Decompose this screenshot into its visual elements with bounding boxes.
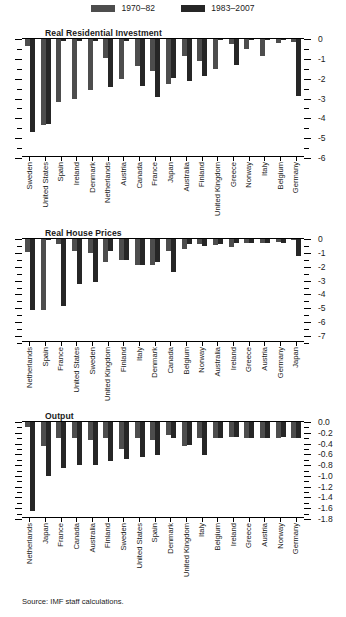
y-tick-major: [15, 422, 22, 423]
y-tick-major: [15, 99, 22, 100]
bar-series2: [202, 239, 207, 246]
x-axis-label: Ireland: [226, 521, 242, 522]
bar-series1: [213, 39, 218, 69]
y-tick-minor: [304, 449, 309, 450]
bar-group: [22, 39, 38, 157]
y-tick-label: -0.6: [318, 450, 333, 459]
x-axis-label: United States: [38, 160, 54, 161]
x-axis-label: Greece: [241, 521, 257, 522]
bar-series1: [72, 39, 77, 99]
x-axis-label-text: Italy: [136, 347, 144, 361]
y-tick-major: [304, 281, 311, 282]
x-axis-label: Belgium: [273, 160, 289, 161]
y-tick-major: [304, 322, 311, 323]
y-tick-major: [304, 158, 311, 159]
x-axis-label-text: United Kingdom: [104, 347, 112, 401]
x-axis-label: Italy: [132, 345, 148, 346]
y-tick-major: [304, 336, 311, 337]
bar-group: [226, 39, 242, 157]
y-tick-label: -0.2: [318, 429, 333, 438]
bar-series2: [93, 239, 98, 282]
x-axis-label-text: United Kingdom: [183, 523, 191, 577]
bar-series2: [171, 39, 176, 78]
bar-group: [273, 422, 289, 518]
bar-series2: [296, 39, 301, 96]
bar-series2: [281, 422, 286, 437]
legend-item-1970-82: 1970–82: [91, 4, 155, 13]
x-axis-label-text: Netherlands: [26, 523, 34, 564]
bar-group: [241, 239, 257, 342]
bar-group: [226, 422, 242, 518]
x-axis-label: Norway: [273, 521, 289, 522]
y-tick-major: [15, 519, 22, 520]
y-tick-minor: [304, 329, 309, 330]
y-tick-major: [15, 308, 22, 309]
y-tick-minor: [304, 49, 309, 50]
bar-group: [179, 422, 195, 518]
y-tick-major: [304, 59, 311, 60]
bar-group: [241, 422, 257, 518]
bar-series-container: [22, 422, 304, 518]
bar-group: [116, 239, 132, 342]
x-axis-label: Netherlands: [22, 521, 38, 522]
y-tick-major: [15, 253, 22, 254]
x-axis-label: Japan: [38, 521, 54, 522]
x-axis-label-text: Italy: [261, 162, 269, 176]
y-tick-minor: [304, 128, 309, 129]
x-axis-label-text: United States: [136, 523, 144, 569]
legend-swatch-1970-82: [91, 5, 115, 12]
bar-series-container: [22, 39, 304, 157]
y-tick-major: [15, 465, 22, 466]
y-tick-label: 0: [318, 235, 323, 244]
bar-group: [210, 39, 226, 157]
y-tick-label: -6: [318, 154, 326, 163]
bar-series2: [171, 239, 176, 272]
bar-series2: [296, 239, 301, 256]
bar-series2: [155, 239, 160, 262]
x-axis-label-text: Sweden: [89, 347, 97, 374]
bar-group: [147, 239, 163, 342]
bar-group: [53, 239, 69, 342]
y-tick-label: -7: [318, 332, 326, 341]
bar-group: [194, 39, 210, 157]
legend-label-1970-82: 1970–82: [121, 4, 155, 13]
x-axis-label: Ireland: [69, 160, 85, 161]
bar-series1: [244, 39, 249, 49]
x-axis-label-text: Austria: [261, 347, 269, 371]
bar-series2: [124, 239, 129, 260]
x-axis-label-text: Canada: [136, 162, 144, 189]
panel-0-x-labels: SwedenUnited StatesSpainIrelandDenmarkNe…: [22, 160, 304, 161]
y-tick-label: -4: [318, 114, 326, 123]
bar-series2: [202, 39, 207, 76]
bar-group: [194, 422, 210, 518]
x-axis-label-text: Finland: [198, 162, 206, 187]
y-tick-minor: [304, 315, 309, 316]
x-axis-label: United States: [69, 345, 85, 346]
y-tick-major: [15, 118, 22, 119]
bar-group: [100, 422, 116, 518]
x-axis-label: Ireland: [226, 345, 242, 346]
bar-group: [116, 422, 132, 518]
x-axis-label-text: Australia: [214, 347, 222, 377]
x-axis-label: United States: [132, 521, 148, 522]
x-axis-label: Denmark: [147, 345, 163, 346]
bar-group: [69, 422, 85, 518]
x-axis-label: Netherlands: [100, 160, 116, 161]
y-tick-major: [15, 79, 22, 80]
bar-series2: [265, 422, 270, 438]
x-axis-label: Australia: [179, 160, 195, 161]
x-axis-label: Finland: [100, 521, 116, 522]
panel-1-title: Real House Prices: [44, 228, 124, 238]
panel-1-x-labels: NetherlandsSpainFranceUnited StatesSwede…: [22, 345, 304, 346]
x-axis-label: Germany: [273, 345, 289, 346]
x-axis-label-text: United Kingdom: [214, 162, 222, 216]
x-axis-label-text: Austria: [120, 162, 128, 186]
y-tick-major: [304, 519, 311, 520]
x-axis-label: Norway: [241, 160, 257, 161]
bar-series2: [155, 39, 160, 97]
y-tick-major: [15, 487, 22, 488]
bar-series2: [124, 39, 129, 41]
bar-series2: [249, 239, 254, 243]
bar-group: [257, 422, 273, 518]
x-axis-label-text: Belgium: [183, 347, 191, 374]
